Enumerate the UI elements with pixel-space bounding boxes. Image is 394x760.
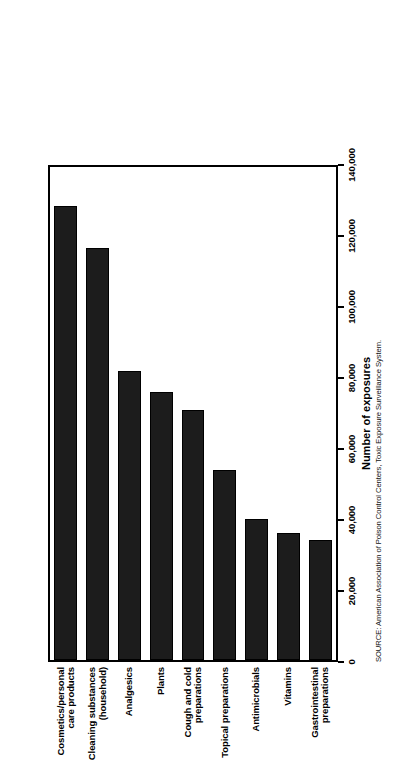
category-label: Gastrointestinal preparations <box>310 667 331 738</box>
bar <box>245 519 268 660</box>
bar <box>182 410 205 660</box>
bar-row: Antimicrobials <box>241 167 273 660</box>
axis-tick <box>338 590 344 592</box>
category-label: Analgesics <box>124 667 134 716</box>
bar-row: Gastrointestinal preparations <box>304 167 336 660</box>
axis-tick-label: 0 <box>346 659 357 664</box>
value-axis: Number of exposures 020,00040,00060,0008… <box>338 165 378 662</box>
axis-tick-label: 80,000 <box>346 364 357 392</box>
bar <box>213 470 236 660</box>
axis-tick-label: 120,000 <box>346 219 357 253</box>
bar-row: Vitamins <box>272 167 304 660</box>
bar <box>86 248 109 660</box>
axis-tick <box>338 448 344 450</box>
source-note: SOURCE: American Association of Poison C… <box>374 102 383 662</box>
axis-tick <box>338 377 344 379</box>
axis-tick-label: 40,000 <box>346 506 357 534</box>
bar <box>54 206 77 660</box>
bar <box>309 540 332 660</box>
bar-row: Analgesics <box>114 167 146 660</box>
category-label: Cleaning substances (household) <box>87 667 108 760</box>
bar <box>118 371 141 660</box>
category-label: Cough and cold preparations <box>183 667 204 737</box>
category-label: Antimicrobials <box>251 667 261 732</box>
bar-row: Cleaning substances (household) <box>82 167 114 660</box>
category-label: Plants <box>156 667 166 695</box>
bar <box>150 392 173 660</box>
axis-tick <box>338 164 344 166</box>
category-label: Cosmetics/personal care products <box>56 667 77 755</box>
axis-tick-label: 100,000 <box>346 290 357 324</box>
bar-series: Cosmetics/personal care productsCleaning… <box>50 167 336 660</box>
category-label: Vitamins <box>283 667 293 706</box>
value-axis-title: Number of exposures <box>360 357 372 470</box>
bar-row: Plants <box>145 167 177 660</box>
bar-row: Cosmetics/personal care products <box>50 167 82 660</box>
category-label: Topical preparations <box>220 667 230 758</box>
bar <box>277 533 300 660</box>
axis-tick-label: 20,000 <box>346 577 357 605</box>
axis-tick <box>338 519 344 521</box>
bar-row: Cough and cold preparations <box>177 167 209 660</box>
bar-row: Topical preparations <box>209 167 241 660</box>
axis-tick <box>338 661 344 663</box>
chart-plot-area: Cosmetics/personal care productsCleaning… <box>48 165 338 662</box>
axis-tick-label: 140,000 <box>346 148 357 182</box>
axis-tick <box>338 235 344 237</box>
axis-tick-label: 60,000 <box>346 435 357 463</box>
axis-tick <box>338 306 344 308</box>
